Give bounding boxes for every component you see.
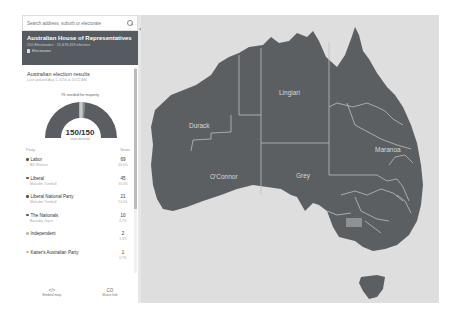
embed-map-label: Embed map xyxy=(42,293,61,297)
electorates-link-label: Electorates xyxy=(32,49,51,53)
map-canvas[interactable] xyxy=(141,15,439,303)
map-label-grey: Grey xyxy=(296,172,310,179)
party-seats: 69 xyxy=(120,157,125,162)
party-name: Labor xyxy=(31,157,43,162)
party-leader: Malcolm Turnbull xyxy=(30,182,56,186)
party-pct: 1.3% xyxy=(119,237,127,241)
party-row[interactable]: The Nationals Barnaby Joyce 10 6.7% xyxy=(26,213,130,232)
electorate-map[interactable]: Durack Lingiari Maranoa O'Connor Grey xyxy=(141,15,439,303)
party-pct: 14.0% xyxy=(118,200,127,204)
party-name: Liberal xyxy=(31,176,45,181)
party-color-dot xyxy=(26,177,29,180)
map-label-oconnor: O'Connor xyxy=(210,173,238,180)
party-pct: 30.0% xyxy=(118,182,127,186)
col-seats: Seats xyxy=(120,148,130,152)
party-row[interactable]: Independent 2 1.3% xyxy=(26,231,130,250)
party-row[interactable]: Labor Bill Shorten 69 46.0% xyxy=(26,157,130,176)
header-subtitle: 150 Electorates · 15,676,659 electors xyxy=(27,43,133,47)
party-name: Liberal National Party xyxy=(31,194,74,199)
party-seats: 1 xyxy=(122,250,125,255)
results-updated: Last updated Aug 1, 2016 at 10:22 AM xyxy=(27,78,87,82)
party-seats: 45 xyxy=(120,176,125,181)
search-box[interactable] xyxy=(22,15,138,31)
share-link-label: Share link xyxy=(102,293,118,297)
footer-buttons: </> Embed map CO Share link xyxy=(22,288,138,297)
party-row[interactable]: Liberal National Party Malcolm Turnbull … xyxy=(26,194,130,213)
party-color-dot xyxy=(26,251,29,254)
search-input[interactable] xyxy=(27,21,127,26)
party-pct: 46.0% xyxy=(118,163,127,167)
party-color-dot xyxy=(26,214,29,217)
header-title: Australian House of Representatives xyxy=(27,35,133,41)
map-label-maranoa: Maranoa xyxy=(375,146,401,153)
results-scrollbar[interactable] xyxy=(134,67,137,273)
party-pct: 0.7% xyxy=(119,256,127,260)
seats-counted: 150/150 xyxy=(22,128,138,137)
share-link-button[interactable]: CO Share link xyxy=(102,288,118,297)
party-seats: 10 xyxy=(120,213,125,218)
search-icon[interactable] xyxy=(127,20,133,26)
results-table-header: Party Seats xyxy=(26,148,130,152)
seats-counted-sub: seats declared xyxy=(22,137,138,141)
electorates-link[interactable]: Electorates xyxy=(27,49,133,53)
party-row[interactable]: Katter's Australian Party 1 0.7% xyxy=(26,250,130,269)
party-leader: Malcolm Turnbull xyxy=(30,200,74,204)
party-color-dot xyxy=(26,158,29,161)
party-leader: Barnaby Joyce xyxy=(30,219,58,223)
col-party: Party xyxy=(26,148,35,152)
party-name: The Nationals xyxy=(31,213,59,218)
party-seats: 2 xyxy=(122,231,125,236)
results-title: Australian election results xyxy=(27,71,90,77)
party-name: Independent xyxy=(31,231,56,236)
party-color-dot xyxy=(26,232,29,235)
party-pct: 6.7% xyxy=(119,219,127,223)
person-icon xyxy=(27,49,30,53)
party-row[interactable]: Liberal Malcolm Turnbull 45 30.0% xyxy=(26,176,130,195)
party-leader: Bill Shorten xyxy=(30,163,48,167)
majority-label: 76 needed for majority xyxy=(22,93,138,97)
party-list: Labor Bill Shorten 69 46.0% Liberal Malc… xyxy=(26,157,130,268)
party-name: Katter's Australian Party xyxy=(31,250,79,255)
sidebar: Australian House of Representatives 150 … xyxy=(22,15,138,303)
embed-map-button[interactable]: </> Embed map xyxy=(42,288,61,297)
scrollbar-thumb[interactable] xyxy=(134,69,137,209)
electorate-header: Australian House of Representatives 150 … xyxy=(22,31,138,65)
map-label-lingiari: Lingiari xyxy=(279,89,300,96)
party-seats: 21 xyxy=(120,194,125,199)
map-label-durack: Durack xyxy=(189,122,210,129)
party-color-dot xyxy=(26,195,29,198)
